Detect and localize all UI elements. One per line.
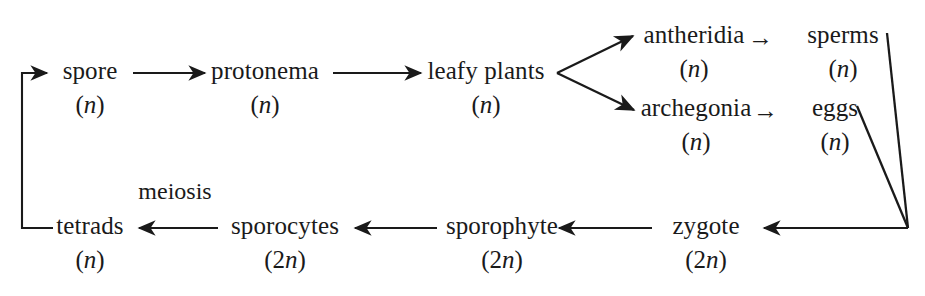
node-antheridia-label: antheridia xyxy=(644,22,745,47)
arrow-antheridia-to-sperms-icon: → xyxy=(748,25,773,50)
node-antheridia: antheridia (n) xyxy=(644,22,745,81)
node-tetrads: tetrads (n) xyxy=(56,213,123,272)
node-leafy-plants-ploidy: (n) xyxy=(427,92,544,117)
node-sporophyte-label: sporophyte xyxy=(446,213,558,238)
node-sperms-ploidy: (n) xyxy=(807,56,878,81)
node-tetrads-label: tetrads xyxy=(56,213,123,238)
node-spore-label: spore xyxy=(63,58,118,83)
node-zygote: zygote (2n) xyxy=(672,213,739,272)
node-tetrads-ploidy: (n) xyxy=(56,247,123,272)
node-eggs-ploidy: (n) xyxy=(812,129,858,154)
node-spore-ploidy: (n) xyxy=(63,92,118,117)
edge-leafy-plants-to-antheridia xyxy=(557,36,633,73)
edge-leafy-plants-to-archegonia xyxy=(557,73,634,110)
node-archegonia: archegonia (n) xyxy=(641,95,752,154)
node-eggs-label: eggs xyxy=(812,95,858,120)
node-spore: spore (n) xyxy=(63,58,118,117)
arrow-archegonia-to-eggs-icon: → xyxy=(753,98,778,123)
node-leafy-plants-label: leafy plants xyxy=(427,58,544,83)
node-zygote-label: zygote xyxy=(672,213,739,238)
label-meiosis: meiosis xyxy=(138,178,211,205)
node-sporocytes-label: sporocytes xyxy=(231,213,339,238)
edge-sperms-to-junction xyxy=(887,33,908,228)
node-protonema-ploidy: (n) xyxy=(211,92,319,117)
node-protonema: protonema (n) xyxy=(211,58,319,117)
node-eggs: eggs (n) xyxy=(812,95,858,154)
node-sporocytes: sporocytes (2n) xyxy=(231,213,339,272)
node-archegonia-ploidy: (n) xyxy=(641,129,752,154)
node-leafy-plants: leafy plants (n) xyxy=(427,58,544,117)
moss-life-cycle-diagram: spore (n) protonema (n) leafy plants (n)… xyxy=(0,0,925,296)
node-sporophyte-ploidy: (2n) xyxy=(446,247,558,272)
node-antheridia-ploidy: (n) xyxy=(644,56,745,81)
node-protonema-label: protonema xyxy=(211,58,319,83)
node-sperms-label: sperms xyxy=(807,22,878,47)
node-zygote-ploidy: (2n) xyxy=(672,247,739,272)
node-archegonia-label: archegonia xyxy=(641,95,752,120)
node-sperms: sperms (n) xyxy=(807,22,878,81)
node-sporophyte: sporophyte (2n) xyxy=(446,213,558,272)
node-sporocytes-ploidy: (2n) xyxy=(231,247,339,272)
edge-tetrads-to-spore-bracket xyxy=(22,73,53,228)
